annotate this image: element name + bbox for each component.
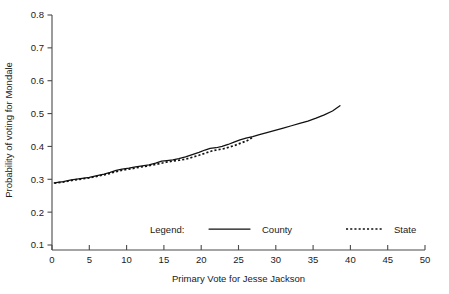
- x-tick-label: 10: [121, 254, 132, 265]
- y-tick-label: 0.1: [31, 239, 44, 250]
- y-tick-label: 0.6: [31, 75, 44, 86]
- axis-labels-group: Primary Vote for Jesse JacksonProbabilit…: [3, 62, 305, 284]
- y-tick-label: 0.8: [31, 9, 44, 20]
- x-tick-label: 45: [382, 254, 393, 265]
- series-line-county: [54, 106, 340, 183]
- x-tick-label: 0: [49, 254, 54, 265]
- legend-label-county: County: [262, 224, 292, 235]
- x-tick-label: 20: [196, 254, 207, 265]
- chart-plot-area: 0.10.20.30.40.50.60.70.8 051015202530354…: [0, 0, 449, 294]
- y-axis-title: Probability of voting for Mondale: [3, 62, 14, 198]
- x-tick-label: 15: [159, 254, 170, 265]
- y-tick-label: 0.4: [31, 141, 44, 152]
- chart-container: 0.10.20.30.40.50.60.70.8 051015202530354…: [0, 0, 449, 294]
- x-tick-label: 30: [271, 254, 282, 265]
- series-line-state: [54, 137, 252, 183]
- x-axis-title: Primary Vote for Jesse Jackson: [172, 273, 305, 284]
- x-axis: 05101520253035404550: [49, 245, 430, 265]
- x-tick-label: 25: [233, 254, 244, 265]
- y-tick-label: 0.7: [31, 42, 44, 53]
- x-tick-label: 40: [345, 254, 356, 265]
- y-tick-label: 0.5: [31, 108, 44, 119]
- x-tick-label: 35: [308, 254, 319, 265]
- chart-legend: Legend:CountyState: [150, 224, 416, 235]
- y-tick-label: 0.3: [31, 174, 44, 185]
- y-axis: 0.10.20.30.40.50.60.70.8: [31, 9, 52, 250]
- data-series-group: [54, 106, 340, 184]
- legend-label-state: State: [394, 224, 416, 235]
- x-tick-label: 50: [420, 254, 431, 265]
- x-tick-label: 5: [87, 254, 92, 265]
- legend-title: Legend:: [150, 224, 184, 235]
- y-tick-label: 0.2: [31, 207, 44, 218]
